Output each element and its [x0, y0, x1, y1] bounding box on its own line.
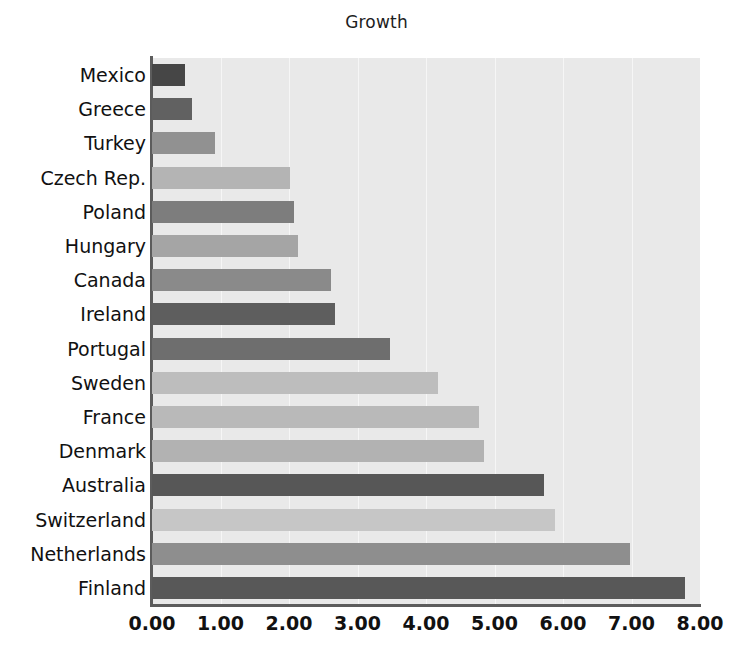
x-axis-tick-label: 8.00: [655, 612, 745, 634]
y-axis-tick-label: Hungary: [0, 235, 146, 257]
y-axis-tick-labels: MexicoGreeceTurkeyCzech Rep.PolandHungar…: [0, 58, 146, 605]
y-axis-tick-label: Greece: [0, 98, 146, 120]
y-axis-tick-label: Finland: [0, 577, 146, 599]
bar: [152, 372, 438, 394]
bar: [152, 338, 390, 360]
y-axis-tick-label: Canada: [0, 269, 146, 291]
bar: [152, 440, 484, 462]
y-axis-tick-label: Australia: [0, 474, 146, 496]
y-axis-tick-label: France: [0, 406, 146, 428]
y-axis-tick-label: Turkey: [0, 132, 146, 154]
x-axis-tick-labels: 0.001.002.003.004.005.006.007.008.00: [0, 612, 753, 642]
y-axis-tick-label: Poland: [0, 201, 146, 223]
bar: [152, 201, 294, 223]
bar: [152, 64, 185, 86]
y-axis-tick-label: Switzerland: [0, 509, 146, 531]
y-axis-tick-label: Ireland: [0, 303, 146, 325]
bar-chart: Growth MexicoGreeceTurkeyCzech Rep.Polan…: [0, 0, 753, 665]
bar: [152, 303, 335, 325]
bar: [152, 474, 544, 496]
bar: [152, 543, 630, 565]
bar: [152, 132, 215, 154]
chart-title: Growth: [0, 12, 753, 32]
y-axis-tick-label: Sweden: [0, 372, 146, 394]
y-axis-tick-label: Czech Rep.: [0, 167, 146, 189]
bar: [152, 235, 298, 257]
y-axis-tick-label: Mexico: [0, 64, 146, 86]
y-axis-tick-label: Netherlands: [0, 543, 146, 565]
bar: [152, 406, 479, 428]
y-axis-tick-label: Denmark: [0, 440, 146, 462]
bar: [152, 167, 290, 189]
bar: [152, 269, 331, 291]
bars-layer: [152, 58, 700, 605]
bar: [152, 98, 192, 120]
bar: [152, 509, 555, 531]
y-axis-tick-label: Portugal: [0, 338, 146, 360]
bar: [152, 577, 685, 599]
